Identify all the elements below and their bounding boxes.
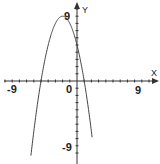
- y-tick-label-9: 9: [64, 10, 70, 22]
- x-axis-arrow-icon: [152, 78, 159, 84]
- graph: X Y -9 0 9 9 -9: [0, 0, 160, 164]
- parabola-curve: [31, 16, 92, 155]
- y-axis-label: Y: [82, 5, 88, 15]
- x-axis-label: X: [151, 68, 157, 78]
- x-tick-label-neg9: -9: [7, 83, 17, 95]
- y-tick-label-neg9: -9: [62, 141, 72, 153]
- y-axis-arrow-icon: [74, 2, 80, 9]
- x-tick-label-9: 9: [135, 84, 141, 96]
- origin-label: 0: [66, 83, 72, 95]
